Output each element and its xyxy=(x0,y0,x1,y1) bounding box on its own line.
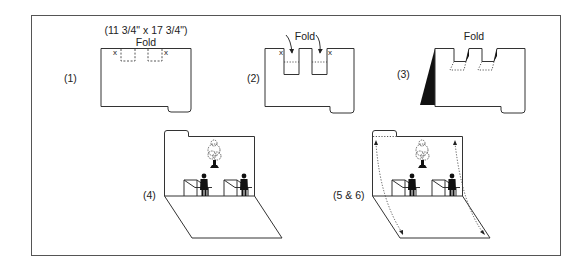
step-2-label: (2) xyxy=(247,72,260,84)
arrowhead-down-left-icon xyxy=(399,230,403,235)
person-left-icon xyxy=(408,174,416,196)
step-3-label: (3) xyxy=(397,68,410,80)
fold-label: Fold xyxy=(464,30,485,42)
cut-line-left xyxy=(121,49,135,61)
tree-icon xyxy=(208,140,221,168)
folded-side-shading xyxy=(420,48,435,105)
person-left-icon xyxy=(200,174,208,196)
cut-line-right xyxy=(148,49,162,61)
cut-mark-right: x xyxy=(328,48,332,57)
card-outline xyxy=(435,49,525,114)
folding-diagram: (1) (11 3/4" x 17 3/4") Fold x x (2) x x… xyxy=(0,0,585,266)
step-1-label: (1) xyxy=(64,72,77,84)
cut-mark-right: x xyxy=(164,48,168,57)
popup-tab-right xyxy=(478,62,494,71)
figure-frame xyxy=(32,16,561,256)
popup-tab-left xyxy=(450,62,466,71)
step-1: (1) (11 3/4" x 17 3/4") Fold x x xyxy=(64,24,191,112)
arrowhead-up-left-icon xyxy=(374,140,378,145)
step-5-6: (5 & 6) xyxy=(333,131,490,239)
fold-arrow-left-icon xyxy=(376,143,403,234)
dimension-label: (11 3/4" x 17 3/4") xyxy=(104,24,187,36)
tree-icon xyxy=(416,140,429,168)
card-floor-panel xyxy=(373,196,491,238)
fold-arrow-right-icon xyxy=(455,143,484,234)
person-right-icon xyxy=(448,174,456,196)
step-5-6-label: (5 & 6) xyxy=(333,189,365,201)
fold-label: Fold xyxy=(295,30,316,42)
fold-arrow-right-icon xyxy=(316,35,320,53)
fold-arrow-left-icon xyxy=(286,35,292,53)
card-outline xyxy=(265,49,354,114)
step-4-label: (4) xyxy=(143,189,156,201)
person-right-icon xyxy=(240,174,248,196)
step-4: (4) xyxy=(143,131,282,239)
cut-mark-left: x xyxy=(279,48,283,57)
cut-mark-left: x xyxy=(113,48,117,57)
arrowhead-up-right-icon xyxy=(453,140,457,145)
step-2: (2) x x Fold xyxy=(247,30,354,113)
card-outline xyxy=(101,49,191,113)
step-3: (3) Fold xyxy=(397,30,525,113)
card-floor-panel xyxy=(165,196,283,238)
fold-label: Fold xyxy=(136,36,157,48)
arrowhead-down-right-icon xyxy=(480,230,485,235)
